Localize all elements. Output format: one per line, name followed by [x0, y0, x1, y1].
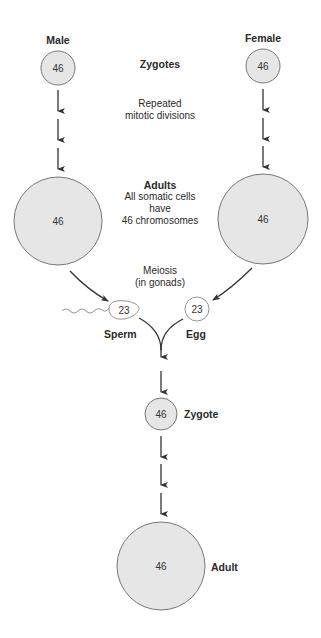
- fertilization-arrow: [139, 318, 183, 392]
- somatic-line-1: All somatic cells: [124, 191, 195, 203]
- mitotic-divisions-label: mitotic divisions: [125, 110, 195, 122]
- egg-count: 23: [191, 304, 202, 315]
- adult-count: 46: [155, 561, 166, 572]
- meiosis-label: Meiosis: [143, 265, 177, 277]
- male-label: Male: [46, 34, 69, 46]
- somatic-line-3: 46 chromosomes: [122, 215, 199, 227]
- female-adult-count: 46: [257, 214, 268, 225]
- zygote-count: 46: [155, 409, 166, 420]
- somatic-line-2: have: [149, 203, 171, 215]
- male-meiosis-arrow: [70, 271, 108, 301]
- male-zygote-count: 46: [52, 63, 63, 74]
- sperm-count: 23: [118, 305, 129, 316]
- female-label: Female: [245, 32, 281, 44]
- sperm-label: Sperm: [104, 328, 137, 340]
- gonads-label: (in gonads): [135, 277, 185, 289]
- egg-label: Egg: [186, 328, 206, 340]
- life-cycle-diagram: [0, 0, 321, 638]
- zygotes-label: Zygotes: [140, 58, 180, 70]
- adult-label: Adult: [211, 561, 238, 573]
- male-adult-count: 46: [52, 216, 63, 227]
- female-meiosis-arrow: [213, 268, 252, 300]
- repeated-label: Repeated: [138, 98, 181, 110]
- zygote-label: Zygote: [184, 408, 218, 420]
- adults-label: Adults: [144, 179, 177, 191]
- female-zygote-count: 46: [257, 61, 268, 72]
